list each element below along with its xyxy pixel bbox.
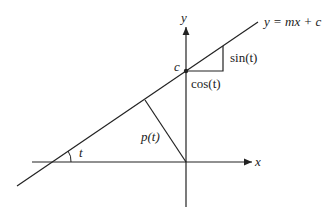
diagram-canvas: x y y = mx + c c sin(t) cos(t) p(t) t <box>0 0 331 215</box>
intercept-label: c <box>174 59 180 74</box>
y-axis-label: y <box>179 10 187 25</box>
angle-label: t <box>79 145 83 160</box>
run-label: cos(t) <box>191 76 221 91</box>
rise-label: sin(t) <box>230 50 257 65</box>
x-axis-label: x <box>254 154 261 169</box>
perpendicular-label: p(t) <box>140 129 160 144</box>
line-equation-label: y = mx + c <box>262 14 321 29</box>
angle-arc <box>68 151 71 162</box>
